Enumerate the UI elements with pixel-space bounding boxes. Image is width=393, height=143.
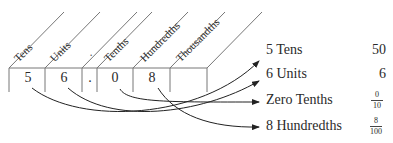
denominator: 100 bbox=[370, 127, 382, 136]
chart-grid bbox=[9, 12, 262, 92]
digit-tenths: 0 bbox=[105, 70, 125, 86]
arrow-tens bbox=[32, 61, 259, 112]
value-6: 6 bbox=[360, 66, 386, 82]
digit-tens: 5 bbox=[18, 70, 38, 86]
digit-hundredths: 8 bbox=[142, 70, 162, 86]
fraction-0-over-10: 0 10 bbox=[369, 91, 385, 110]
label-8-hundredths: 8 Hundredths bbox=[266, 118, 342, 134]
digit-units: 6 bbox=[54, 70, 74, 86]
label-5-tens: 5 Tens bbox=[266, 42, 302, 58]
fraction-8-over-100: 8 100 bbox=[368, 117, 384, 136]
value-50: 50 bbox=[360, 42, 386, 58]
denominator: 10 bbox=[373, 101, 381, 110]
digit-decimal-point: . bbox=[80, 70, 100, 86]
numerator: 0 bbox=[375, 90, 379, 99]
numerator: 8 bbox=[374, 116, 378, 125]
label-6-units: 6 Units bbox=[266, 66, 307, 82]
label-zero-tenths: Zero Tenths bbox=[266, 92, 333, 108]
